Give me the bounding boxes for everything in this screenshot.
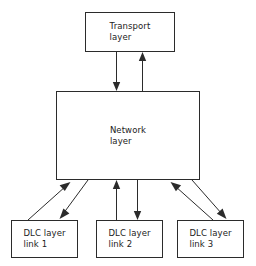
edge-transport-to-network xyxy=(113,52,120,91)
edge-network-to-dlc3 xyxy=(192,180,227,219)
node-dlc-layer-link-1[interactable] xyxy=(12,221,78,258)
node-dlc-layer-link-2[interactable] xyxy=(97,221,163,258)
node-network-layer[interactable] xyxy=(57,92,200,180)
layer-diagram xyxy=(0,0,256,266)
edge-network-to-transport xyxy=(139,52,146,91)
edge-dlc3-to-network xyxy=(171,182,214,220)
edge-network-to-dlc2 xyxy=(134,180,141,220)
edge-dlc2-to-network xyxy=(113,180,120,220)
node-transport-layer[interactable] xyxy=(86,13,175,52)
diagram-canvas: Transportlayer Networklayer DLC layerlin… xyxy=(0,0,256,266)
node-dlc-layer-link-3[interactable] xyxy=(178,221,244,258)
